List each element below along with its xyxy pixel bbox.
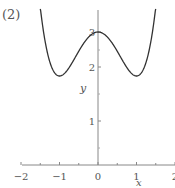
y-tick-label: 2 <box>89 62 95 73</box>
panel-label: (2) <box>2 7 20 22</box>
y-axis-label: y <box>79 82 87 95</box>
function-plot: (2) −2−1012 123 x y <box>0 0 175 188</box>
x-tick-label: 0 <box>95 171 101 182</box>
x-tick-label: −1 <box>52 171 67 182</box>
x-axis-label: x <box>136 177 142 188</box>
y-ticks: 123 <box>89 27 101 149</box>
x-tick-label: −2 <box>14 171 29 182</box>
x-tick-label: 2 <box>172 171 175 182</box>
y-tick-label: 1 <box>89 116 95 127</box>
